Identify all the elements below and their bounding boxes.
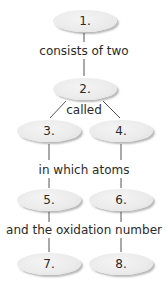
node-label: 4. bbox=[115, 124, 126, 138]
concept-node-4: 4. bbox=[89, 120, 153, 142]
node-label: 7. bbox=[43, 257, 54, 271]
link-label-called: called bbox=[0, 103, 168, 117]
node-label: 5. bbox=[43, 193, 54, 207]
concept-node-3: 3. bbox=[17, 120, 81, 142]
concept-node-7: 7. bbox=[17, 253, 81, 275]
node-label: 2. bbox=[79, 82, 90, 96]
concept-node-6: 6. bbox=[89, 189, 153, 211]
concept-node-8: 8. bbox=[89, 253, 153, 275]
link-label-consists-of-two: consists of two bbox=[0, 44, 168, 58]
node-label: 1. bbox=[79, 14, 90, 28]
concept-node-1: 1. bbox=[53, 10, 117, 32]
node-label: 8. bbox=[115, 257, 126, 271]
link-label-in-which-atoms: in which atoms bbox=[0, 163, 168, 177]
node-label: 6. bbox=[115, 193, 126, 207]
node-label: 3. bbox=[43, 124, 54, 138]
concept-node-2: 2. bbox=[53, 78, 117, 100]
concept-node-5: 5. bbox=[17, 189, 81, 211]
link-label-oxidation-number: and the oxidation number bbox=[0, 223, 168, 237]
